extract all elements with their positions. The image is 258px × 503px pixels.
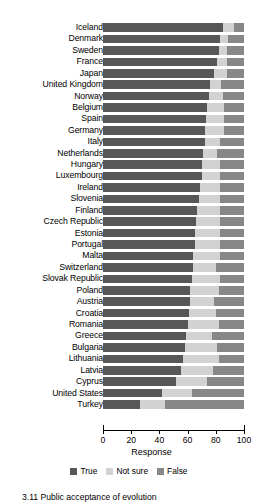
bar-row: Cyprus <box>0 376 258 387</box>
bar-segment-true <box>103 69 214 78</box>
bar-segment-not-sure <box>219 46 227 55</box>
category-label: Netherlands <box>57 148 103 159</box>
bar-segment-false <box>227 46 244 55</box>
bar-row: Netherlands <box>0 148 258 159</box>
bar-segment-false <box>224 115 244 124</box>
bar-segment-false <box>220 172 244 181</box>
legend-label: True <box>80 466 97 476</box>
x-axis-tick <box>216 430 217 434</box>
bar-segment-true <box>103 92 209 101</box>
legend-item-false: False <box>157 466 187 476</box>
x-axis-title: Response <box>0 447 258 457</box>
figure-caption: 3.11 Public acceptance of evolution <box>22 492 258 503</box>
category-label: Finland <box>75 205 103 216</box>
bar-segment-true <box>103 377 176 386</box>
stacked-bar <box>103 377 244 386</box>
bar-row: Bulgaria <box>0 342 258 353</box>
bar-segment-true <box>103 343 185 352</box>
bar-row: Finland <box>0 205 258 216</box>
x-axis-tick <box>103 430 104 434</box>
bar-segment-false <box>220 252 244 261</box>
bar-row: United States <box>0 388 258 399</box>
x-axis-tick <box>131 430 132 434</box>
category-label: Bulgaria <box>72 342 103 353</box>
category-label: Italy <box>88 136 103 147</box>
bar-segment-true <box>103 275 192 284</box>
bar-segment-false <box>220 217 244 226</box>
x-axis-tick-label: 80 <box>211 435 221 445</box>
bar-segment-false <box>220 138 244 147</box>
bar-row: Spain <box>0 113 258 124</box>
legend-item-true: True <box>70 466 97 476</box>
x-axis-title-label: Response <box>131 447 172 457</box>
stacked-bar <box>103 206 244 215</box>
bar-row: Japan <box>0 68 258 79</box>
bar-rows: IcelandDenmarkSwedenFranceJapanUnited Ki… <box>0 22 258 410</box>
stacked-bar <box>103 35 244 44</box>
stacked-bar <box>103 217 244 226</box>
legend-item-not-sure: Not sure <box>106 466 148 476</box>
category-label: Malta <box>82 250 103 261</box>
chart-legend: TrueNot sureFalse <box>0 466 258 476</box>
bar-segment-not-sure <box>205 126 225 135</box>
bar-segment-false <box>213 366 244 375</box>
stacked-bar <box>103 240 244 249</box>
bar-row: Sweden <box>0 45 258 56</box>
bar-segment-not-sure <box>183 355 218 364</box>
bar-segment-not-sure <box>205 138 221 147</box>
stacked-bar <box>103 343 244 352</box>
bar-segment-not-sure <box>196 217 220 226</box>
bar-row: Greece <box>0 330 258 341</box>
stacked-bar <box>103 149 244 158</box>
bar-segment-not-sure <box>181 366 213 375</box>
bar-segment-true <box>103 103 207 112</box>
stacked-bar <box>103 23 244 32</box>
x-axis-tick-label: 100 <box>237 435 251 445</box>
bar-segment-not-sure <box>189 309 216 318</box>
bar-segment-false <box>207 377 244 386</box>
category-label: Denmark <box>68 33 103 44</box>
bar-segment-not-sure <box>217 58 227 67</box>
bar-segment-false <box>219 320 244 329</box>
category-label: Estonia <box>75 228 103 239</box>
bar-row: Luxembourg <box>0 170 258 181</box>
stacked-bar <box>103 195 244 204</box>
category-label: Sweden <box>72 45 103 56</box>
stacked-bar <box>103 263 244 272</box>
stacked-bar <box>103 275 244 284</box>
stacked-bar <box>103 183 244 192</box>
stacked-bar <box>103 138 244 147</box>
bar-row: Slovak Republic <box>0 273 258 284</box>
bar-segment-not-sure <box>197 206 220 215</box>
bar-segment-true <box>103 400 140 409</box>
bar-segment-false <box>220 195 244 204</box>
stacked-bar <box>103 389 244 398</box>
bar-segment-not-sure <box>223 23 234 32</box>
bar-segment-not-sure <box>209 92 223 101</box>
stacked-bar <box>103 172 244 181</box>
stacked-bar <box>103 92 244 101</box>
category-label: Iceland <box>76 22 103 33</box>
bar-segment-not-sure <box>190 297 214 306</box>
bar-row: Romania <box>0 319 258 330</box>
category-label: Romania <box>69 319 103 330</box>
bar-segment-not-sure <box>210 80 221 89</box>
bar-segment-false <box>227 69 244 78</box>
stacked-bar <box>103 400 244 409</box>
category-label: Poland <box>77 285 103 296</box>
bar-segment-false <box>221 80 244 89</box>
bar-segment-true <box>103 115 206 124</box>
bar-segment-not-sure <box>192 275 220 284</box>
bar-segment-not-sure <box>214 69 227 78</box>
category-label: Austria <box>77 296 103 307</box>
bar-segment-true <box>103 366 181 375</box>
bar-segment-false <box>214 297 244 306</box>
bar-row: Switzerland <box>0 262 258 273</box>
bar-row: Croatia <box>0 308 258 319</box>
bar-segment-true <box>103 240 195 249</box>
bar-segment-true <box>103 332 186 341</box>
x-axis-tick <box>244 430 245 434</box>
bar-segment-true <box>103 195 199 204</box>
category-label: Slovenia <box>70 193 103 204</box>
category-label: Czech Republic <box>44 216 103 227</box>
